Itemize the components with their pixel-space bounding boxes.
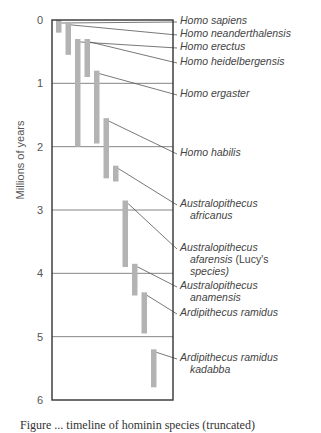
- y-tick-label: 1: [37, 77, 43, 89]
- species-label: africanus: [190, 209, 233, 221]
- figure-caption: Figure ... timeline of hominin species (…: [20, 418, 255, 433]
- species-label: Homo habilis: [180, 146, 241, 158]
- species-range-bar: [66, 22, 72, 55]
- species-range-bar: [94, 71, 100, 144]
- species-label: anamensis: [190, 291, 242, 303]
- y-tick-label: 3: [37, 204, 43, 216]
- species-label: Homo neanderthalensis: [180, 27, 292, 39]
- species-label: Homo erectus: [180, 40, 246, 52]
- species-label: Australopithecus: [179, 241, 258, 253]
- species-label: afarensis (Lucy's: [190, 253, 268, 265]
- species-range-bar: [151, 349, 157, 387]
- y-tick-label: 5: [37, 331, 43, 343]
- y-axis-label: Millions of years: [14, 120, 26, 199]
- species-range-bar: [132, 264, 138, 296]
- species-range-bar: [56, 20, 62, 33]
- species-range-bar: [123, 201, 129, 268]
- species-label: Homo heidelbergensis: [180, 55, 285, 67]
- y-tick-label: 4: [37, 267, 43, 279]
- species-range-bar: [85, 39, 91, 77]
- species-label: kadabba: [190, 363, 230, 375]
- leader-line: [119, 169, 178, 205]
- species-label: Ardipithecus ramidus: [179, 306, 279, 318]
- leader-line: [62, 22, 178, 23]
- species-label: Homo sapiens: [180, 14, 248, 26]
- leader-line: [100, 74, 178, 95]
- species-range-bar: [113, 166, 119, 182]
- y-tick-label: 6: [37, 394, 43, 406]
- species-range-bar: [104, 118, 110, 178]
- leader-line: [71, 25, 177, 35]
- species-label: Australopithecus: [179, 279, 258, 291]
- species-label: Ardipithecus ramidus: [179, 351, 279, 363]
- species-label: Australopithecus: [179, 197, 258, 209]
- species-label: species): [190, 265, 229, 277]
- species-label: Homo ergaster: [180, 87, 250, 99]
- leader-line: [138, 267, 178, 287]
- leader-line: [157, 352, 178, 359]
- leader-line: [109, 121, 177, 154]
- y-tick-label: 0: [37, 14, 43, 26]
- species-range-bar: [75, 39, 81, 147]
- y-tick-label: 2: [37, 141, 43, 153]
- species-range-bar: [142, 292, 148, 333]
